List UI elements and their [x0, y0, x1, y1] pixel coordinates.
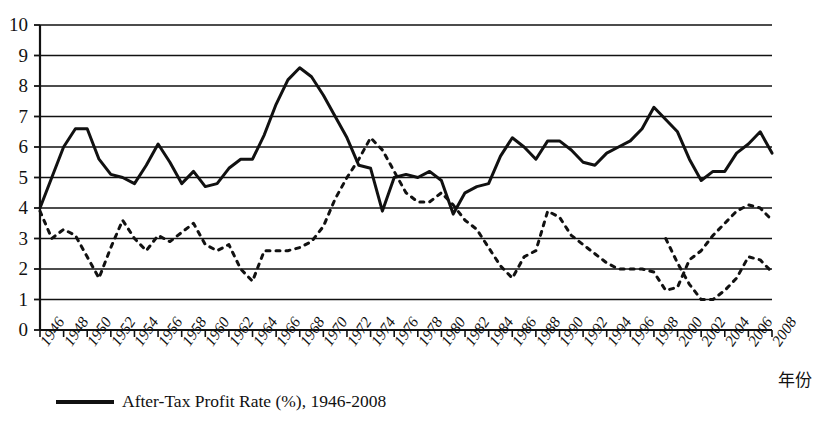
y-axis-label: 10	[2, 15, 28, 34]
y-axis-label: 6	[2, 137, 28, 156]
y-axis-label: 0	[2, 320, 28, 339]
y-axis-label: 3	[2, 229, 28, 248]
y-axis-label: 4	[2, 198, 28, 217]
chart-container: 012345678910 194619481950195219541956195…	[0, 0, 821, 425]
y-axis-label: 8	[2, 76, 28, 95]
y-axis-label: 5	[2, 168, 28, 187]
chart-plot-area	[0, 0, 821, 425]
chart-legend: After-Tax Profit Rate (%), 1946-2008	[56, 392, 386, 411]
y-axis-label: 9	[2, 46, 28, 65]
legend-label: After-Tax Profit Rate (%), 1946-2008	[122, 392, 386, 411]
legend-line-swatch	[56, 400, 114, 404]
x-axis-title: 年份	[778, 372, 812, 389]
y-axis-label: 2	[2, 259, 28, 278]
data-series-group	[40, 68, 772, 300]
y-axis-label: 1	[2, 290, 28, 309]
y-axis-label: 7	[2, 107, 28, 126]
